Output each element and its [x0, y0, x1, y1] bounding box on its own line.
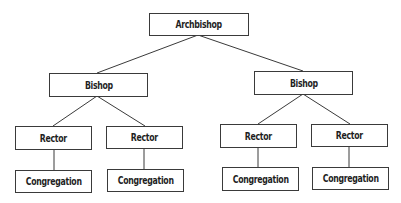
node-label: Congregation	[118, 175, 174, 186]
node-label: Rector	[245, 131, 272, 142]
org-chart-diagram: Archbishop Bishop Bishop Rector Rector R…	[0, 0, 401, 203]
node-label: Congregation	[26, 176, 82, 187]
node-label: Rector	[131, 132, 158, 143]
node-label: Congregation	[233, 174, 289, 185]
connector-archbishop-bishop-left	[97, 35, 198, 73]
node-congregation-4: Congregation	[312, 167, 389, 190]
node-congregation-2: Congregation	[107, 169, 184, 192]
connector-bishop-left-rector-2	[97, 96, 145, 126]
node-bishop-right: Bishop	[254, 71, 353, 95]
node-label: Rector	[40, 133, 67, 144]
node-rector-1: Rector	[15, 126, 92, 150]
node-label: Rector	[336, 130, 363, 141]
node-bishop-left: Bishop	[49, 73, 148, 97]
node-label: Bishop	[85, 80, 113, 91]
node-label: Archbishop	[176, 19, 222, 30]
node-archbishop: Archbishop	[149, 13, 249, 36]
connector-bishop-left-rector-1	[53, 96, 97, 126]
node-congregation-3: Congregation	[222, 167, 299, 191]
node-rector-4: Rector	[311, 124, 388, 147]
node-label: Bishop	[290, 78, 318, 89]
node-rector-3: Rector	[220, 124, 297, 148]
connector-bishop-right-rector-4	[303, 94, 350, 124]
connector-archbishop-bishop-right	[198, 35, 303, 71]
connector-bishop-right-rector-3	[258, 94, 303, 124]
node-label: Congregation	[323, 173, 379, 184]
node-rector-2: Rector	[106, 126, 183, 149]
node-congregation-1: Congregation	[15, 170, 92, 193]
